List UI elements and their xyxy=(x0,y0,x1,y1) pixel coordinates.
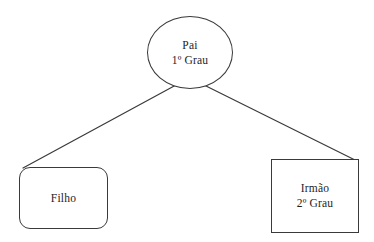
node-filho-label: Filho xyxy=(51,191,76,206)
edge-pai-irmao xyxy=(204,85,355,160)
node-filho[interactable]: Filho xyxy=(19,167,108,229)
node-irmao[interactable]: Irmão 2º Grau xyxy=(271,159,359,233)
edge-pai-filho xyxy=(23,85,176,168)
node-pai-label: Pai xyxy=(182,38,197,53)
node-pai-degree: 1º Grau xyxy=(172,53,209,68)
kinship-diagram: Pai 1º Grau Filho Irmão 2º Grau xyxy=(0,0,374,242)
node-irmao-degree: 2º Grau xyxy=(297,196,334,211)
node-pai[interactable]: Pai 1º Grau xyxy=(147,16,233,89)
node-irmao-label: Irmão xyxy=(301,181,329,196)
